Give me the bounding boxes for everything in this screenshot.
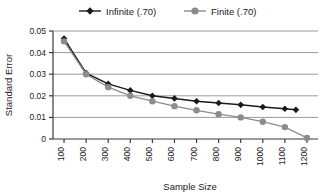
x-tick-label: 700 [189, 147, 199, 161]
legend-label-infinite: Infinite (.70) [106, 6, 156, 17]
x-tick-label: 900 [233, 147, 243, 161]
data-point-circle [83, 71, 89, 77]
data-point-diamond [237, 102, 244, 109]
data-point-circle [215, 111, 221, 117]
x-tick-label: 200 [78, 147, 88, 161]
series-finite [61, 38, 310, 141]
data-point-diamond [193, 98, 200, 105]
y-tick-label: 0.05 [29, 26, 46, 36]
y-tick-label: 0.02 [29, 91, 46, 101]
y-tick-label: 0.01 [29, 112, 46, 122]
x-tick-label: 500 [144, 147, 154, 161]
x-axis-ticks: 100200300400500600700800900100011001200 [56, 139, 309, 166]
data-point-circle [193, 107, 199, 113]
x-tick-label: 1200 [299, 147, 309, 166]
data-point-circle [61, 38, 67, 44]
diamond-marker-icon [86, 7, 93, 15]
x-tick-label: 1000 [255, 147, 265, 166]
data-point-circle [105, 84, 111, 90]
x-tick-label: 800 [211, 147, 221, 161]
x-tick-label: 1100 [277, 147, 287, 166]
data-point-circle [127, 93, 133, 99]
x-tick-label: 600 [166, 147, 176, 161]
y-tick-label: 0.03 [29, 69, 46, 79]
data-point-circle [260, 119, 266, 125]
data-point-diamond [293, 107, 300, 114]
y-axis-title: Standard Error [3, 54, 14, 116]
data-point-circle [238, 114, 244, 120]
x-tick-label: 300 [100, 147, 110, 161]
data-point-circle [282, 124, 288, 130]
circle-marker-icon [191, 7, 198, 14]
data-point-circle [149, 98, 155, 104]
chart-canvas: Infinite (.70) Finite (.70) 00.010.020.0… [0, 0, 324, 195]
chart-series-layer [61, 35, 310, 141]
y-tick-label: 0 [41, 134, 46, 144]
data-point-diamond [282, 105, 289, 112]
data-point-diamond [215, 100, 222, 107]
x-axis-title: Sample Size [163, 181, 216, 192]
x-tick-label: 100 [56, 147, 66, 161]
standard-error-line-chart: Infinite (.70) Finite (.70) 00.010.020.0… [0, 0, 324, 195]
legend-label-finite: Finite (.70) [211, 6, 256, 17]
data-point-diamond [259, 104, 266, 111]
data-point-circle [171, 103, 177, 109]
x-tick-label: 400 [122, 147, 132, 161]
chart-legend: Infinite (.70) Finite (.70) [79, 6, 256, 17]
data-point-circle [304, 135, 310, 141]
chart-gridlines [53, 31, 318, 117]
series-line [64, 41, 307, 138]
legend-item-infinite: Infinite (.70) [79, 6, 156, 17]
y-tick-label: 0.04 [29, 48, 46, 58]
legend-item-finite: Finite (.70) [184, 6, 256, 17]
y-axis-ticks: 00.010.020.030.040.05 [29, 26, 53, 144]
